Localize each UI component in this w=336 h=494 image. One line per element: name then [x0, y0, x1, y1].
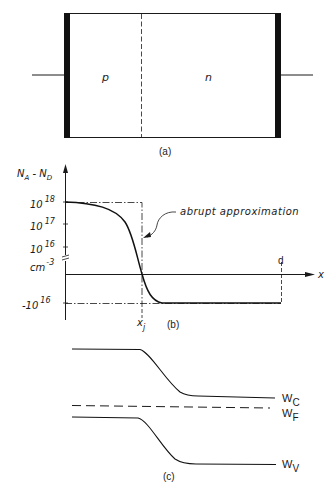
- unit-label: cm-3: [30, 258, 54, 273]
- fermi-level: [72, 406, 270, 409]
- abrupt-approximation-profile: [65, 203, 281, 304]
- y-axis-label: NA - ND: [17, 168, 53, 182]
- right-contact: [275, 13, 281, 138]
- x-axis-arrow-icon: [305, 272, 315, 277]
- region-p-label: p: [101, 71, 109, 84]
- junction-label: xj: [136, 317, 146, 332]
- wc-label: WC: [282, 392, 300, 408]
- axis-break-icon: [62, 255, 69, 260]
- panel-c-band-diagram: WC WF WV (c): [72, 349, 300, 482]
- wf-label: WF: [282, 407, 299, 423]
- tick-label-neg-1e16: -1016: [22, 296, 51, 311]
- panel-b-doping-profile: NA - ND 1018 1017 1016 cm-3 -1016 x d ab…: [17, 164, 324, 332]
- panel-a-device: p n (a): [32, 13, 313, 157]
- tick-label-1e17: 1017: [30, 217, 56, 232]
- annotation-arrow-icon: [143, 232, 151, 238]
- doping-profile-curve: [65, 202, 281, 303]
- caption-c: (c): [163, 471, 175, 482]
- left-contact: [64, 13, 70, 138]
- abrupt-approximation-annotation: abrupt approximation: [180, 206, 299, 217]
- conduction-band-edge: [72, 349, 275, 398]
- x-axis-label: x: [317, 269, 324, 280]
- valence-band-edge: [72, 417, 276, 465]
- annotation-leader: [147, 212, 176, 237]
- region-n-label: n: [205, 71, 212, 84]
- y-axis-arrow-icon: [63, 164, 68, 173]
- wv-label: WV: [282, 458, 299, 474]
- tick-label-1e18: 1018: [30, 195, 55, 210]
- caption-a: (a): [159, 146, 171, 157]
- d-label: d: [278, 255, 284, 266]
- pn-junction-diagram: p n (a) NA - ND 1018 1017 1016 cm-3 -101…: [0, 0, 336, 494]
- tick-label-1e16: 1016: [30, 240, 55, 255]
- caption-b: (b): [167, 319, 179, 330]
